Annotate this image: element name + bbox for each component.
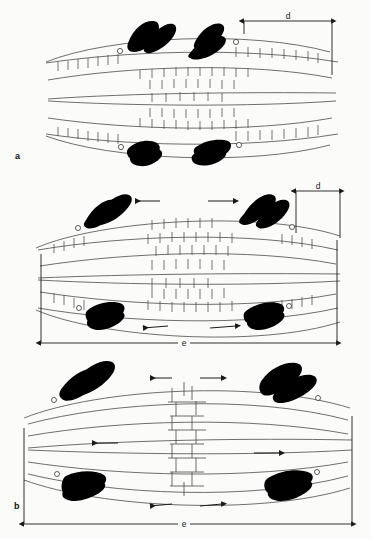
panel-a-diagram: d [0, 0, 371, 178]
chromosome-upper-right-b [239, 194, 294, 229]
arrow-right-bottom-b [210, 326, 236, 328]
dimension-d-a [244, 21, 332, 75]
panel-c: e c [0, 358, 371, 539]
dimension-label-d-a: d [286, 11, 291, 21]
figure-mitotic-spindle-stages: d a [0, 0, 371, 539]
cross-bridges-c [172, 382, 196, 496]
dimension-label-d-b: d [316, 181, 321, 191]
chromosome-lower-right-c [264, 470, 319, 501]
dimension-label-e-b: e [182, 338, 187, 348]
panel-label-a: a [15, 152, 20, 161]
chromosome-lower-left-c [55, 471, 107, 501]
motion-arrows-b [135, 201, 236, 328]
dimension-e-c [24, 416, 352, 524]
chromosome-upper-right-c [259, 363, 320, 403]
panel-b: d e b [0, 178, 371, 358]
chromosome-upper-left-b [76, 194, 132, 230]
cross-bridges-a [58, 47, 318, 144]
chromosome-upper-left-a [117, 21, 176, 54]
panel-b-diagram: d e [0, 178, 371, 358]
dimension-e-b [41, 240, 337, 343]
arrow-left-bottom-b [143, 326, 168, 328]
dimension-label-e-c: e [182, 519, 187, 529]
panel-c-diagram: e [0, 358, 371, 539]
overlap-zone-lines-c [168, 402, 206, 486]
spindle-fibers-b [36, 221, 340, 337]
panel-a: d a [0, 0, 371, 178]
chromosome-upper-left-c [52, 361, 116, 403]
chromosome-lower-right-b [244, 302, 292, 330]
chromosome-upper-right-a [188, 24, 238, 60]
dimension-d-b [296, 191, 340, 238]
